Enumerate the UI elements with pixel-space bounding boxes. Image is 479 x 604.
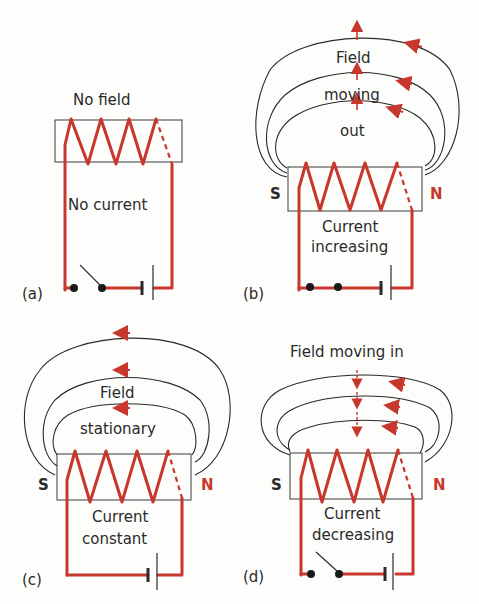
panel-c-inner-text-1: Current — [92, 508, 148, 526]
pole-s-c: S — [38, 476, 49, 494]
panel-c-label: (c) — [22, 571, 42, 589]
panel-a-top-text: No field — [73, 91, 131, 109]
switch-terminal-b1 — [306, 283, 314, 291]
panel-a-label: (a) — [22, 285, 43, 303]
panel-c-field-text-1: Field — [100, 384, 135, 402]
pole-s-b: S — [270, 185, 281, 203]
switch-terminal-d2 — [335, 570, 343, 578]
switch-lever-d — [316, 552, 337, 571]
pole-s-d: S — [271, 476, 282, 494]
panel-d-top-text: Field moving in — [290, 343, 404, 361]
panel-c: Field stationary S N Current constant (c… — [22, 333, 230, 590]
switch-terminal-d1 — [307, 570, 315, 578]
pole-n-c: N — [201, 476, 214, 494]
panel-d-inner-text-2: decreasing — [312, 526, 394, 544]
pole-n-b: N — [430, 185, 443, 203]
circuit-a — [65, 164, 172, 300]
switch-terminal-a1 — [70, 284, 78, 292]
panel-c-field-text-2: stationary — [80, 420, 156, 438]
panel-d-inner-text-1: Current — [324, 505, 380, 523]
panel-d: Field moving in S N Current decreasing — [243, 343, 452, 590]
electromagnet-diagram: No field No current (a) — [0, 0, 479, 604]
panel-b-label: (b) — [243, 285, 264, 303]
switch-terminal-a2 — [98, 284, 106, 292]
pole-n-d: N — [433, 476, 446, 494]
panel-b-inner-text-1: Current — [322, 218, 378, 236]
switch-terminal-b2 — [334, 283, 342, 291]
field-lines-d — [261, 370, 452, 462]
panel-c-inner-text-2: constant — [82, 530, 147, 548]
panel-b-field-text-3: out — [340, 122, 365, 140]
panel-b-inner-text-2: increasing — [311, 238, 388, 256]
panel-a: No field No current (a) — [22, 91, 182, 303]
switch-lever-a — [80, 265, 100, 285]
panel-b: Field moving out S N Current increasing … — [243, 26, 459, 303]
panel-b-field-text-1: Field — [336, 49, 371, 67]
panel-a-inner-text: No current — [68, 196, 147, 214]
panel-d-label: (d) — [243, 568, 264, 586]
panel-b-field-text-2: moving — [324, 86, 380, 104]
